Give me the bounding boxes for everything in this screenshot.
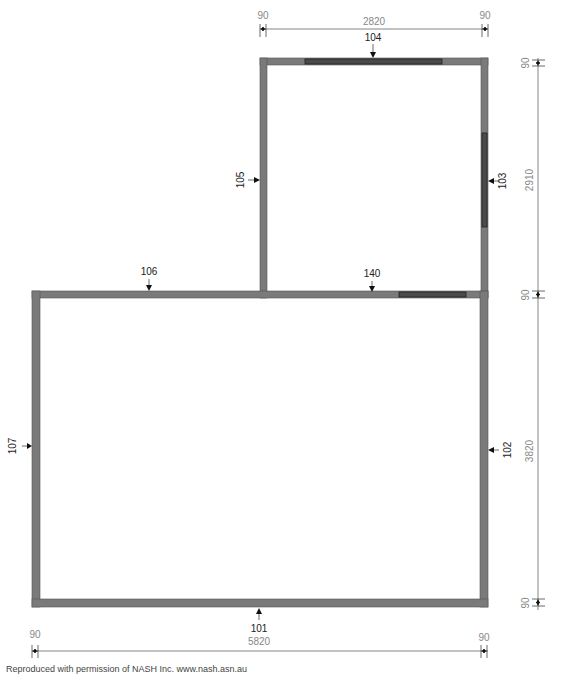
label-140: 140: [364, 268, 381, 279]
label-103: 103: [497, 172, 508, 189]
floor-plan: 104 105 103 106 140 107 102 101: [0, 0, 561, 679]
dim-bottom-left-wall: 90: [29, 629, 41, 640]
label-102: 102: [502, 441, 513, 458]
credit-text: Reproduced with permission of NASH Inc. …: [6, 664, 247, 674]
arrow-140-icon: [369, 281, 375, 292]
dim-right-bottom-wall: 90: [520, 597, 531, 609]
dim-bottom-right-wall: 90: [478, 632, 490, 643]
label-107: 107: [7, 437, 18, 454]
label-104: 104: [365, 32, 382, 43]
dim-bottom-width: 5820: [248, 636, 271, 647]
window-104: [305, 59, 442, 64]
dim-right-top-wall: 90: [520, 57, 531, 69]
arrow-104-icon: [370, 44, 376, 58]
wall-105-left-upper: [260, 58, 267, 298]
arrow-107-icon: [22, 443, 32, 449]
arrow-105-icon: [248, 177, 260, 183]
arrow-101-icon: [256, 608, 262, 620]
wall-102-right: [480, 291, 488, 607]
dim-right-upper-height: 2910: [524, 168, 535, 191]
label-106: 106: [141, 266, 158, 277]
label-101: 101: [251, 623, 268, 634]
window-140: [399, 292, 466, 297]
arrow-102-icon: [488, 447, 499, 453]
dim-top-right-wall: 90: [479, 10, 491, 21]
dim-top-left-wall: 90: [257, 10, 269, 21]
dim-right-lower-height: 3820: [524, 439, 535, 462]
dim-right-mid-wall: 90: [520, 289, 531, 301]
wall-107-left: [32, 291, 40, 607]
dimension-right: [532, 58, 545, 610]
label-105: 105: [235, 171, 246, 188]
dim-top-width: 2820: [363, 16, 386, 27]
arrow-106-icon: [146, 279, 152, 291]
window-103: [482, 133, 487, 227]
wall-101-bottom: [32, 599, 488, 607]
